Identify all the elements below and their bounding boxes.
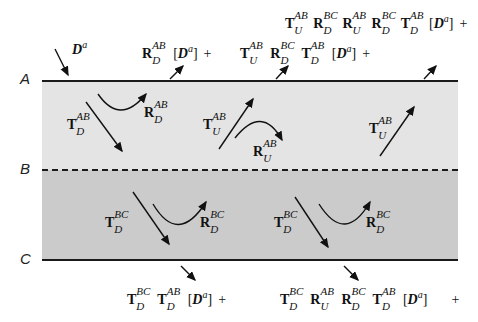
incident-wave-label: Da: [72, 40, 87, 57]
label-t-bc-d-1: TBCD: [105, 215, 115, 231]
label-t-ab-u-1: TABU: [203, 117, 213, 133]
label-t-ab-u-2: TABU: [369, 121, 379, 137]
label-t-ab-d: TABD: [67, 117, 77, 133]
top-expression-3: TABURBCDRABURBCDTABD[Da]+: [285, 14, 467, 31]
bottom-expression-2: TBCDRABURBCDTABD[Da]+: [280, 290, 459, 307]
top-expression-1: RABD[Da]+: [142, 44, 212, 61]
label-r-ab-d: RABD: [144, 105, 155, 121]
bottom-expression-1: TBCDTABD[Da]+: [127, 290, 226, 307]
top-expression-2: TABURBCDTABD[Da]+: [240, 44, 370, 61]
label-r-bc-d-1: RBCD: [200, 215, 211, 231]
label-r-ab-u: RABU: [253, 144, 264, 160]
label-r-bc-d-2: RBCD: [366, 215, 377, 231]
label-t-bc-d-2: TBCD: [274, 215, 284, 231]
